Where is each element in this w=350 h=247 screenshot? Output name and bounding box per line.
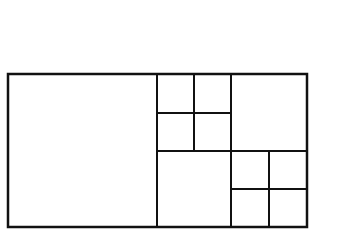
large-square-left xyxy=(8,74,157,227)
small-square-top-left-1 xyxy=(157,74,194,113)
subdivided-rectangle-diagram xyxy=(0,0,350,247)
small-square-bottom-right-1 xyxy=(231,151,269,189)
small-square-bottom-right-3 xyxy=(231,189,269,227)
square-regions xyxy=(8,74,307,227)
medium-square-top-right xyxy=(231,74,307,151)
small-square-top-left-4 xyxy=(194,113,231,151)
small-square-top-left-2 xyxy=(194,74,231,113)
small-square-top-left-3 xyxy=(157,113,194,151)
medium-square-bottom-middle xyxy=(157,151,231,227)
small-square-bottom-right-2 xyxy=(269,151,307,189)
small-square-bottom-right-4 xyxy=(269,189,307,227)
